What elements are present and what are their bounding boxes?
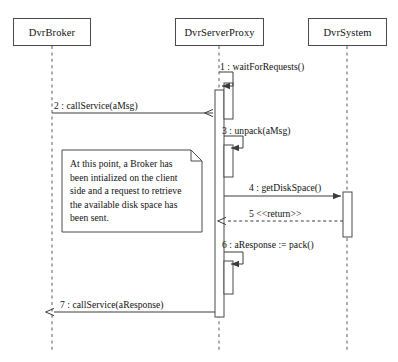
broker-note-line-4: the available disk space has xyxy=(70,198,198,212)
message-label-7: 7 : callService(aResponse) xyxy=(60,299,164,310)
proxy-activation-pack xyxy=(224,261,233,294)
lifeline-label-dvrbroker: DvrBroker xyxy=(29,27,75,38)
lifeline-head-dvrbroker[interactable]: DvrBroker xyxy=(13,18,91,46)
message-label-2: 2 : callService(aMsg) xyxy=(54,100,138,111)
proxy-activation-unpack xyxy=(224,145,233,177)
proxy-activation-wait xyxy=(224,83,233,119)
lifeline-label-dvrsystem: DvrSystem xyxy=(323,27,371,38)
message-label-4: 4 : getDiskSpace() xyxy=(249,182,321,193)
broker-note-line-3: side and a request to retrieve xyxy=(70,184,198,198)
activation-bars xyxy=(215,83,352,317)
message-label-3: 3 : unpack(aMsg) xyxy=(222,125,290,136)
broker-note-line-5: been sent. xyxy=(70,211,198,225)
broker-note-text: At this point, a Broker has been intiali… xyxy=(70,157,198,225)
lifeline-head-dvrserverproxy[interactable]: DvrServerProxy xyxy=(175,18,264,46)
message-label-6: 6 : aResponse := pack() xyxy=(222,239,314,250)
message-label-5: 5 <<return>> xyxy=(249,208,301,219)
lifeline-head-dvrsystem[interactable]: DvrSystem xyxy=(308,18,387,46)
uml-sequence-diagram: DvrBroker DvrServerProxy DvrSystem 1 : w… xyxy=(0,0,398,362)
broker-note-line-2: been intialized on the client xyxy=(70,171,198,185)
message-label-1: 1 : waitForRequests() xyxy=(220,61,304,72)
broker-note-line-1: At this point, a Broker has xyxy=(70,157,198,171)
system-activation xyxy=(343,192,352,237)
lifeline-label-dvrserverproxy: DvrServerProxy xyxy=(184,27,254,38)
